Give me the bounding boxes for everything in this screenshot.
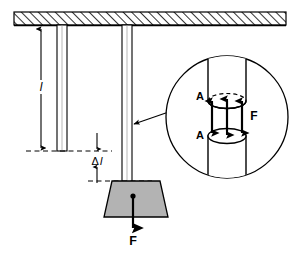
force-label-inset: F xyxy=(250,109,257,123)
ceiling-support xyxy=(14,12,286,26)
unloaded-reference-rod xyxy=(57,25,67,151)
elongation-label: Δl xyxy=(92,155,103,167)
suspended-weight-block xyxy=(104,181,168,217)
area-label-bottom: A xyxy=(196,129,204,141)
physics-diagram: l Δl F xyxy=(0,0,298,254)
elongation-l-symbol: l xyxy=(100,155,103,167)
weight-block-shape xyxy=(104,181,168,217)
magnified-detail-circle: A A F xyxy=(166,46,288,188)
force-label-main: F xyxy=(129,234,137,248)
length-label: l xyxy=(40,80,43,94)
diagram-canvas: l Δl F xyxy=(0,0,298,254)
elongation-delta-symbol: Δ xyxy=(92,155,100,167)
loaded-rod xyxy=(122,25,132,182)
area-label-top: A xyxy=(196,90,204,102)
ceiling-hatch-band xyxy=(14,12,286,25)
